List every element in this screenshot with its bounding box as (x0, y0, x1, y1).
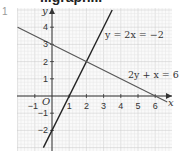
graph: −11234564321−1−2yxOy = 2x = −22y + x = 6 (0, 0, 183, 152)
y-tick-label: 2 (43, 57, 48, 67)
equation-label-2: 2y + x = 6 (128, 69, 179, 80)
x-tick-label: 3 (101, 101, 106, 111)
x-tick-label: 6 (153, 101, 158, 111)
x-tick-label: 4 (118, 101, 123, 111)
x-tick-label: 5 (135, 101, 140, 111)
equation-label-1: y = 2x = −2 (104, 29, 164, 40)
y-tick-label: −2 (38, 125, 48, 135)
y-tick-label: 3 (43, 39, 48, 49)
x-axis-label: x (168, 97, 174, 108)
y-tick-label: 4 (43, 22, 48, 32)
y-tick-label: −1 (38, 108, 48, 118)
x-tick-label: −1 (28, 101, 38, 111)
x-tick-label: 1 (67, 101, 72, 111)
origin-label: O (42, 96, 50, 107)
y-tick-label: 1 (43, 74, 48, 84)
x-tick-label: 2 (84, 101, 89, 111)
y-axis-label: y (41, 5, 48, 16)
